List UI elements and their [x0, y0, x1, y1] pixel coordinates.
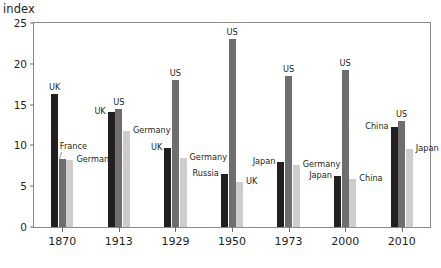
bar-1929-us	[172, 80, 179, 227]
x-axis-tick-label: 1913	[105, 235, 133, 248]
bar-label: US	[396, 110, 407, 118]
bar-1870-uk	[51, 94, 58, 227]
bar-label: Japan	[416, 144, 439, 152]
x-axis-tick-mark	[175, 227, 176, 232]
bar-1870-france	[59, 159, 66, 227]
bar-2010-japan	[406, 149, 413, 227]
y-axis-tick-mark	[30, 23, 34, 24]
x-axis-tick-label: 1973	[275, 235, 303, 248]
bar-label: Japan	[309, 171, 332, 179]
bar-label: US	[226, 28, 237, 36]
bar-1973-germany	[293, 165, 300, 227]
bar-label: Germany	[133, 126, 171, 134]
bar-label: US	[170, 69, 181, 77]
x-axis-tick-label: 1870	[48, 235, 76, 248]
y-axis-tick-mark	[30, 104, 34, 105]
bar-1950-us	[229, 39, 236, 227]
bar-label: UK	[151, 143, 162, 151]
bar-label: Japan	[253, 157, 276, 165]
bar-2010-china	[391, 127, 398, 227]
bar-1913-germany	[123, 131, 130, 227]
y-axis-tick-mark	[30, 145, 34, 146]
bar-1870-germany	[66, 160, 73, 227]
bar-2000-japan	[334, 176, 341, 227]
y-axis-title: index	[3, 2, 35, 16]
bar-1950-uk	[236, 182, 243, 227]
x-axis-tick-mark	[345, 227, 346, 232]
plot-area: 05101520251870UKFranceGermany1913UKUSGer…	[33, 22, 431, 228]
bar-2000-china	[349, 179, 356, 227]
x-axis-tick-label: 1950	[218, 235, 246, 248]
bar-chart: index 05101520251870UKFranceGermany1913U…	[0, 0, 441, 268]
bar-1929-germany	[180, 158, 187, 227]
x-axis-tick-mark	[232, 227, 233, 232]
bar-label: Germany	[190, 153, 228, 161]
bar-label: China	[365, 122, 388, 130]
bar-2010-us	[398, 121, 405, 227]
bar-1929-uk	[164, 148, 171, 227]
x-axis-tick-label: 1929	[161, 235, 189, 248]
bar-label: France	[60, 142, 87, 150]
bar-label: UK	[94, 107, 105, 115]
bar-label: China	[359, 174, 382, 182]
bar-1913-uk	[108, 112, 115, 227]
bar-label: US	[340, 59, 351, 67]
bar-label: Germany	[303, 160, 341, 168]
x-axis-tick-mark	[119, 227, 120, 232]
bar-label: US	[283, 65, 294, 73]
x-axis-tick-label: 2010	[388, 235, 416, 248]
x-axis-tick-mark	[62, 227, 63, 232]
bar-label: UK	[246, 177, 257, 185]
x-axis-tick-mark	[402, 227, 403, 232]
y-axis-tick-mark	[30, 186, 34, 187]
bar-label: US	[113, 98, 124, 106]
label-leader-line	[59, 152, 62, 159]
bar-1950-russia	[221, 174, 228, 227]
bar-1913-us	[115, 109, 122, 227]
bar-2000-us	[342, 70, 349, 227]
x-axis-tick-mark	[289, 227, 290, 232]
bar-1973-us	[285, 76, 292, 227]
y-axis-tick-mark	[30, 63, 34, 64]
x-axis-tick-label: 2000	[331, 235, 359, 248]
bar-label: UK	[49, 83, 60, 91]
bar-1973-japan	[277, 162, 284, 227]
bar-label: Russia	[193, 169, 219, 177]
y-axis-tick-mark	[30, 227, 34, 228]
